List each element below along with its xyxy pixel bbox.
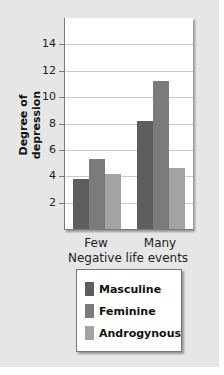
x-category-few: Few: [66, 236, 126, 250]
figure-panel: Degree of depression Few Many Negative l…: [0, 0, 219, 367]
y-tick-label: 2: [36, 196, 56, 209]
y-tick: [59, 44, 65, 45]
legend-swatch-masculine: [85, 282, 94, 296]
gridline: [65, 71, 193, 72]
legend-swatch-feminine: [85, 304, 94, 318]
y-tick: [59, 124, 65, 125]
y-tick: [59, 203, 65, 204]
y-tick: [59, 71, 65, 72]
plot-area: [64, 18, 193, 230]
legend-item-androgynous: Androgynous: [85, 325, 181, 341]
y-tick: [59, 176, 65, 177]
bar-few-androgynous: [105, 174, 121, 229]
y-tick-label: 12: [36, 64, 56, 77]
x-axis-title: Negative life events: [64, 251, 192, 265]
gridline: [65, 97, 193, 98]
y-tick-label: 4: [36, 169, 56, 182]
bar-few-feminine: [89, 159, 105, 229]
legend: Masculine Feminine Androgynous: [76, 269, 182, 352]
bar-many-masculine: [137, 121, 153, 229]
legend-label: Masculine: [99, 283, 161, 296]
legend-item-masculine: Masculine: [85, 281, 161, 297]
y-tick-label: 14: [36, 37, 56, 50]
legend-label: Androgynous: [99, 327, 181, 340]
y-tick-label: 8: [36, 117, 56, 130]
bar-many-androgynous: [169, 168, 185, 229]
legend-label: Feminine: [99, 305, 156, 318]
y-tick-label: 6: [36, 143, 56, 156]
bar-many-feminine: [153, 81, 169, 229]
legend-item-feminine: Feminine: [85, 303, 156, 319]
gridline: [65, 44, 193, 45]
bar-few-masculine: [73, 179, 89, 229]
gridline: [65, 150, 193, 151]
y-tick: [59, 97, 65, 98]
gridline: [65, 124, 193, 125]
x-category-many: Many: [130, 236, 190, 250]
y-tick-label: 10: [36, 90, 56, 103]
y-tick: [59, 150, 65, 151]
legend-swatch-androgynous: [85, 326, 94, 340]
